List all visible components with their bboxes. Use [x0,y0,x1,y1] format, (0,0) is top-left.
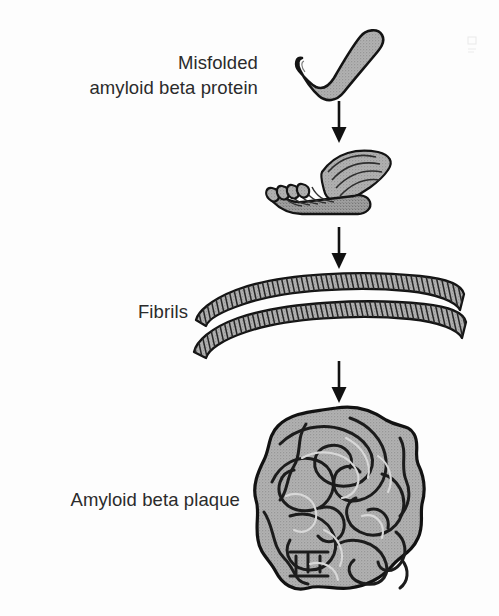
label-fibrils: Fibrils [0,299,188,324]
label-amyloid-beta-plaque: Amyloid beta plaque [0,487,240,512]
misfolded-protein-icon [288,22,396,106]
plaque-icon [250,404,430,600]
scan-artifact [466,36,480,56]
amyloid-aggregation-diagram: Misfolded amyloid beta protein Fibrils A… [0,0,499,616]
label-misfolded-amyloid-beta-protein: Misfolded amyloid beta protein [0,50,258,100]
fibril-icon [188,266,468,364]
down-arrow-icon [325,100,353,144]
beta-sheet-icon [262,142,400,228]
down-arrow-icon [325,360,353,404]
down-arrow-icon [325,226,353,270]
